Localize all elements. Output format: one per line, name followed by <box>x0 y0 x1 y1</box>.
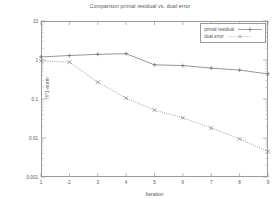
legend-item-primal-residual: primal residual <box>204 26 263 33</box>
series-line-dual-error <box>41 61 268 152</box>
x-tick-label: 7 <box>210 180 213 185</box>
data-point-marker <box>153 63 157 67</box>
chart-title: Comparison primal residual vs. dual erro… <box>0 3 280 9</box>
legend-swatch-primal-residual <box>237 26 263 33</box>
data-point-marker <box>238 137 242 141</box>
x-tick-label: 4 <box>125 180 128 185</box>
y-tick-label: 0.01 <box>29 136 38 141</box>
data-point-marker <box>124 96 128 100</box>
data-point-marker <box>266 150 270 154</box>
data-point-marker <box>238 68 242 72</box>
x-tick-label: 6 <box>182 180 185 185</box>
data-point-marker <box>124 52 128 56</box>
y-tick-label: 1 <box>35 58 38 63</box>
y-axis-label: H^1-norm <box>44 58 50 118</box>
legend-swatch-dual-error <box>227 33 253 40</box>
x-tick-label: 9 <box>267 180 270 185</box>
y-tick-label: 0.001 <box>27 175 39 180</box>
data-point-marker <box>96 52 100 56</box>
x-axis-label: Iteration <box>41 191 268 197</box>
chart-legend: primal residual dual error <box>200 23 266 43</box>
legend-item-dual-error: dual error <box>204 33 263 40</box>
x-tick-label: 5 <box>153 180 156 185</box>
y-tick-label: 10 <box>33 19 38 24</box>
plot-area: 1010.10.010.001 123456789 H^1-norm Itera… <box>41 21 268 177</box>
data-point-marker <box>266 72 270 76</box>
y-tick-label: 0.1 <box>32 97 38 102</box>
chart-figure: Comparison primal residual vs. dual erro… <box>0 0 280 199</box>
axis-ticks <box>41 21 268 177</box>
data-point-marker <box>96 80 100 84</box>
data-point-marker <box>39 59 43 63</box>
legend-label-dual-error: dual error <box>204 34 224 39</box>
legend-label-primal-residual: primal residual <box>204 27 234 32</box>
x-tick-label: 1 <box>40 180 43 185</box>
x-tick-label: 8 <box>238 180 241 185</box>
data-series-group <box>39 52 270 154</box>
data-point-marker <box>181 64 185 68</box>
data-point-marker <box>67 54 71 58</box>
x-tick-label: 2 <box>68 180 71 185</box>
plot-canvas <box>41 21 268 177</box>
data-point-marker <box>39 55 43 59</box>
data-point-marker <box>209 66 213 70</box>
data-point-marker <box>209 126 213 130</box>
x-tick-label: 3 <box>96 180 99 185</box>
